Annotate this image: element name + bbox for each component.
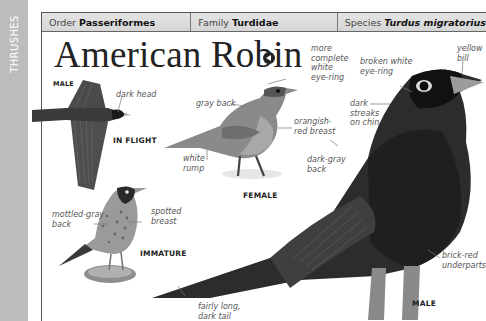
section-tab: THRUSHES — [0, 0, 28, 321]
note-dark-head: dark head — [116, 90, 156, 100]
note-broken-white-eye-ring: broken white eye-ring — [360, 57, 412, 76]
family-label: Family — [198, 17, 229, 28]
flight-sex-tag: MALE — [53, 80, 74, 88]
male-tag: MALE — [412, 299, 436, 308]
note-dark-streaks-chin: dark streaks on chin — [350, 99, 379, 128]
note-mottled-gray-back: mottled-gray back — [52, 210, 104, 229]
note-gray-back: gray back — [196, 99, 236, 109]
note-yellow-bill: yellow bill — [457, 44, 483, 63]
note-spotted-breast: spotted breast — [151, 207, 181, 226]
note-orangish-red-breast: orangish- red breast — [294, 117, 335, 136]
species-label: Species — [345, 17, 382, 28]
taxonomy-bar: Order Passeriformes Family Turdidae Spec… — [42, 13, 486, 32]
order-value: Passeriformes — [79, 17, 155, 28]
taxonomy-family: Family Turdidae — [190, 13, 336, 31]
species-value: Turdus migratorius — [384, 17, 486, 28]
family-value: Turdidae — [232, 17, 279, 28]
note-fairly-long-dark-tail: fairly long, dark tail — [198, 302, 241, 321]
female-tag: FEMALE — [243, 191, 278, 200]
note-dark-gray-back: dark-gray back — [307, 155, 346, 174]
note-brick-red-underparts: brick-red underparts — [442, 251, 486, 270]
taxonomy-order: Order Passeriformes — [42, 13, 190, 31]
taxonomy-species: Species Turdus migratorius — [337, 13, 486, 31]
robin-immature-illustration — [55, 182, 155, 287]
flight-view-tag: IN FLIGHT — [113, 136, 157, 145]
immature-tag: IMMATURE — [140, 249, 187, 258]
note-white-rump: white rump — [183, 154, 205, 173]
order-label: Order — [49, 17, 76, 28]
section-tab-label: THRUSHES — [9, 15, 20, 73]
note-female-eye-ring: more complete white eye-ring — [311, 44, 348, 82]
